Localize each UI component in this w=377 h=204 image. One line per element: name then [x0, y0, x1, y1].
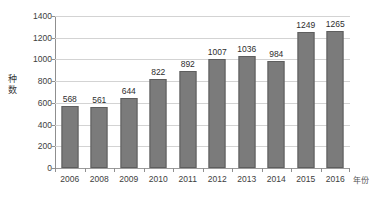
- bar-chart: 种 数 0200400600800100012001400 5685616448…: [0, 0, 377, 204]
- y-axis-title-char-2: 数: [5, 85, 19, 96]
- x-axis-tick-label: 2006: [60, 174, 79, 184]
- bar[interactable]: [238, 56, 255, 168]
- x-axis-tick-label: 2014: [267, 174, 286, 184]
- bar-value-label: 822: [151, 67, 165, 77]
- x-axis-tick-mark: [55, 168, 56, 172]
- bar[interactable]: [209, 59, 226, 168]
- bar-slot: 568: [55, 16, 85, 168]
- y-axis-tick-label: 400: [20, 120, 52, 130]
- y-axis-tick-label: 200: [20, 141, 52, 151]
- bar[interactable]: [61, 106, 78, 168]
- y-axis-tick-label: 1400: [20, 11, 52, 21]
- x-axis-tick-mark: [321, 168, 322, 172]
- x-axis-tick-label: 2008: [90, 174, 109, 184]
- x-axis-tick-mark: [173, 168, 174, 172]
- bar-slot: 1036: [232, 16, 262, 168]
- bar-value-label: 568: [63, 94, 77, 104]
- x-axis-title: 年份: [353, 174, 369, 185]
- x-axis-tick-mark: [262, 168, 263, 172]
- x-axis-tick-mark: [203, 168, 204, 172]
- x-axis-tick-label: 2016: [326, 174, 345, 184]
- bar[interactable]: [327, 31, 344, 168]
- x-axis-tick-mark: [349, 168, 350, 172]
- bar[interactable]: [179, 71, 196, 168]
- bar-value-label: 644: [122, 86, 136, 96]
- y-axis-tick-label: 600: [20, 98, 52, 108]
- y-axis-tick-labels: 0200400600800100012001400: [20, 0, 52, 204]
- bar-value-label: 892: [181, 59, 195, 69]
- bar-value-label: 1036: [237, 44, 256, 54]
- x-axis-tick-label: 2009: [119, 174, 138, 184]
- x-axis-tick-label: 2012: [208, 174, 227, 184]
- y-axis-tick-label: 1000: [20, 54, 52, 64]
- bar-slot: 1007: [203, 16, 233, 168]
- x-axis-tick-mark: [85, 168, 86, 172]
- bar[interactable]: [150, 79, 167, 168]
- bar-slot: 561: [85, 16, 115, 168]
- x-axis-tick-label: 2010: [149, 174, 168, 184]
- bar-slot: 984: [262, 16, 292, 168]
- x-axis: 2006200820092010201120122013201420152016: [55, 168, 350, 188]
- x-axis-tick-label: 2015: [296, 174, 315, 184]
- bar-slot: 822: [144, 16, 174, 168]
- bar-value-label: 1265: [326, 19, 345, 29]
- y-axis-tick-label: 1200: [20, 33, 52, 43]
- bar-slot: 1265: [321, 16, 351, 168]
- bar-value-label: 984: [269, 49, 283, 59]
- bar-slot: 644: [114, 16, 144, 168]
- x-axis-tick-mark: [114, 168, 115, 172]
- y-axis-tick-label: 0: [20, 163, 52, 173]
- bar-value-label: 561: [92, 95, 106, 105]
- bar-slot: 1249: [291, 16, 321, 168]
- bar-value-label: 1249: [296, 20, 315, 30]
- x-axis-tick-mark: [144, 168, 145, 172]
- bar-slot: 892: [173, 16, 203, 168]
- bar-value-label: 1007: [208, 47, 227, 57]
- bar[interactable]: [268, 61, 285, 168]
- bar[interactable]: [120, 98, 137, 168]
- x-axis-tick-label: 2013: [237, 174, 256, 184]
- y-axis-tick-label: 800: [20, 76, 52, 86]
- bar[interactable]: [91, 107, 108, 168]
- plot-area: 5685616448228921007103698412491265: [55, 16, 350, 168]
- bars-layer: 5685616448228921007103698412491265: [55, 16, 350, 168]
- y-axis-title-char-1: 种: [5, 74, 19, 85]
- y-axis-title: 种 数: [5, 74, 19, 96]
- bar[interactable]: [297, 32, 314, 168]
- x-axis-tick-label: 2011: [179, 174, 197, 184]
- x-axis-tick-mark: [291, 168, 292, 172]
- x-axis-tick-mark: [232, 168, 233, 172]
